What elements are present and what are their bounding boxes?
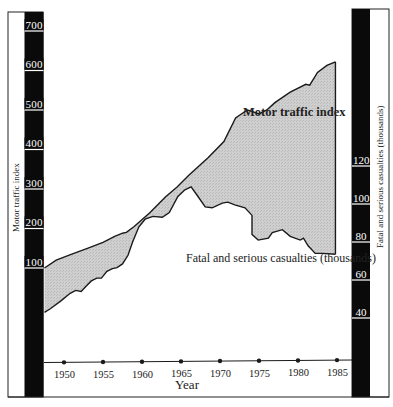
right-axis: 406080100120 Fatal and serious casualtie…: [352, 9, 389, 397]
year-tick-dot: [101, 360, 105, 364]
right-axis-title: Fatal and serious casualties (thousands): [375, 106, 385, 248]
left-axis: 100200300400500600700 Motor traffic inde…: [8, 12, 44, 397]
year-tick-label: 1950: [54, 369, 75, 380]
left-tick-label: 700: [26, 19, 44, 31]
right-tick-label: 60: [356, 268, 368, 280]
year-tick-dot: [140, 360, 144, 364]
left-tick-label: 200: [26, 216, 44, 228]
right-tick-label: 40: [356, 306, 368, 318]
left-axis-title: Motor traffic index: [11, 163, 21, 232]
year-tick-dot: [62, 360, 66, 364]
year-tick-label: 1975: [249, 368, 270, 379]
left-tick-label: 500: [26, 98, 44, 110]
x-axis-title: Year: [175, 377, 200, 392]
right-tick-label: 80: [356, 230, 368, 242]
right-tick-label: 120: [353, 154, 370, 166]
right-tick-label: 100: [353, 192, 370, 204]
casualties-label: Fatal and serious casualties (thousands): [186, 251, 376, 265]
year-tick-dot: [218, 359, 222, 363]
traffic-casualties-chart: 100200300400500600700 Motor traffic inde…: [0, 0, 393, 407]
x-axis-line: [44, 360, 352, 363]
year-tick-label: 1985: [327, 367, 348, 378]
year-tick-label: 1955: [93, 369, 114, 380]
left-tick-label: 400: [26, 137, 44, 149]
motor-traffic-label: Motor traffic index: [243, 105, 346, 119]
left-tick-label: 600: [26, 58, 44, 70]
left-tick-label: 100: [26, 256, 44, 268]
left-tick-label: 300: [26, 177, 44, 189]
year-tick-dot: [296, 358, 300, 362]
year-tick-dot: [335, 358, 339, 362]
year-tick-label: 1960: [132, 369, 153, 380]
year-tick-label: 1970: [210, 368, 231, 379]
year-tick-label: 1980: [288, 367, 309, 378]
year-tick-dot: [257, 359, 261, 363]
year-tick-dot: [179, 359, 183, 363]
